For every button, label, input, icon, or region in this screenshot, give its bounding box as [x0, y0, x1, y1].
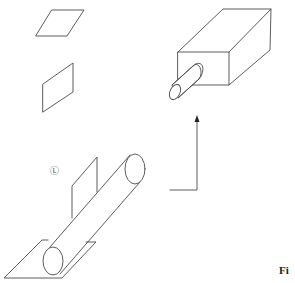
- vertical-parallelogram: [43, 63, 73, 112]
- direction-arrow: [170, 115, 200, 190]
- horizontal-parallelogram: [36, 10, 84, 36]
- vertical-plane: [72, 157, 97, 218]
- small-cylinder: [167, 63, 203, 101]
- circled-symbol: Ⓛ: [50, 167, 59, 176]
- technical-diagram: [0, 0, 295, 283]
- figure-caption-fragment: Fi: [279, 265, 289, 276]
